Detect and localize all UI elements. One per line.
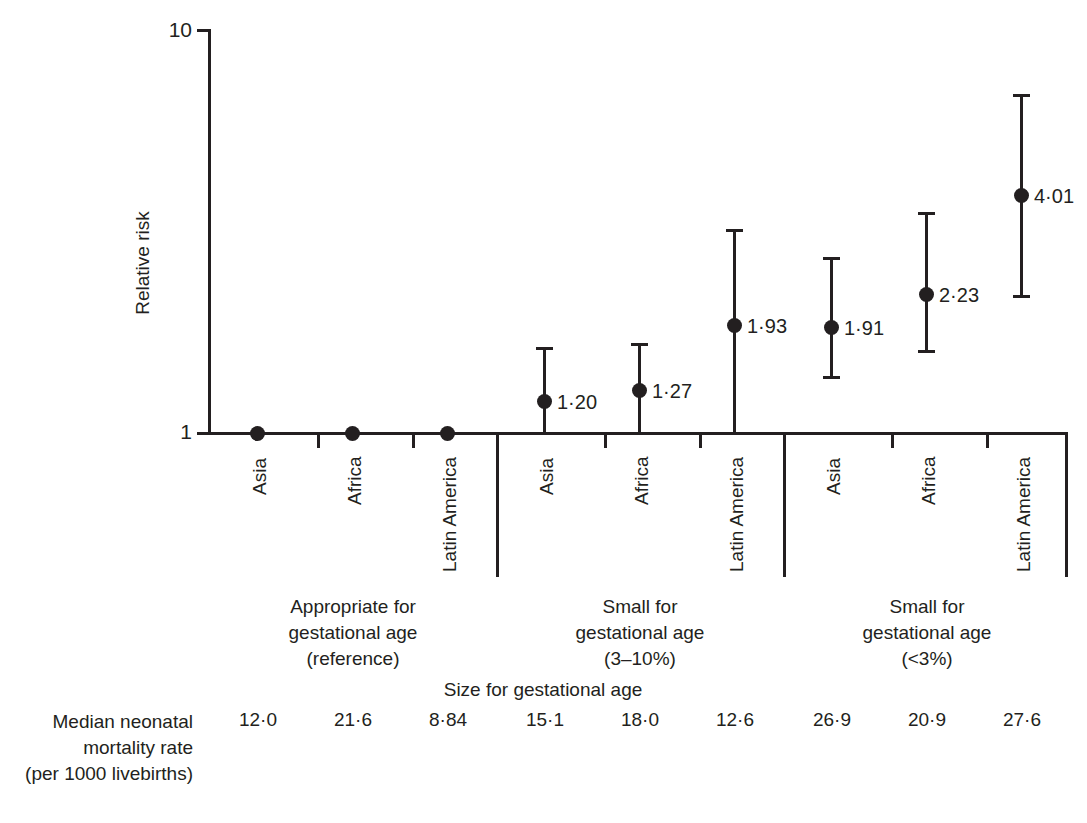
group-title-line: gestational age	[222, 620, 484, 646]
error-bar-cap-upper	[918, 212, 935, 215]
y-axis-line	[208, 29, 211, 435]
group-title-sga-lt3: Small for gestational age (<3%)	[796, 594, 1058, 672]
group-title-line: gestational age	[509, 620, 771, 646]
mortality-row-label-line: (per 1000 livebirths)	[0, 761, 193, 787]
mortality-value: 12·6	[689, 709, 781, 731]
group-title-line: Small for	[796, 594, 1058, 620]
data-point-label: 4·01	[1034, 185, 1074, 208]
x-tick	[891, 435, 894, 448]
x-category-label: Asia	[249, 458, 271, 495]
mortality-value: 18·0	[594, 709, 686, 731]
error-bar-cap-upper	[823, 257, 840, 260]
x-category-label: Africa	[918, 456, 940, 505]
x-tick	[604, 435, 607, 448]
data-point-label: 1·93	[747, 315, 787, 338]
mortality-row-label: Median neonatal mortality rate (per 1000…	[0, 709, 193, 787]
x-category-label: Latin America	[1013, 457, 1035, 572]
error-bar-cap-upper	[1013, 94, 1030, 97]
error-bar-cap-lower	[918, 350, 935, 353]
mortality-value: 26·9	[786, 709, 878, 731]
group-title-line: (reference)	[222, 646, 484, 672]
data-point	[919, 287, 934, 302]
data-point	[250, 426, 265, 441]
error-bar-cap-lower	[1013, 295, 1030, 298]
group-title-sga-3-10: Small for gestational age (3–10%)	[509, 594, 771, 672]
error-bar	[925, 212, 928, 353]
data-point	[345, 426, 360, 441]
data-point	[632, 383, 647, 398]
mortality-value: 12·0	[212, 709, 304, 731]
data-point	[727, 318, 742, 333]
mortality-value: 20·9	[881, 709, 973, 731]
x-tick	[412, 435, 415, 448]
x-category-label: Africa	[344, 456, 366, 505]
chart-figure: 10 1 Relative risk 1·20 1·27 1·93 1·91 2…	[0, 0, 1087, 823]
mortality-row-label-line: Median neonatal	[0, 709, 193, 735]
x-category-label: Africa	[631, 456, 653, 505]
error-bar-cap-lower	[823, 376, 840, 379]
data-point-label: 1·91	[844, 317, 884, 340]
group-title-line: Small for	[509, 594, 771, 620]
data-point	[440, 426, 455, 441]
y-tick-label-10: 10	[140, 18, 192, 42]
mortality-value: 8·84	[402, 709, 494, 731]
mortality-row-label-line: mortality rate	[0, 735, 193, 761]
group-separator-1	[496, 432, 499, 577]
mortality-value: 15·1	[499, 709, 591, 731]
x-category-label: Latin America	[439, 457, 461, 572]
data-point	[537, 394, 552, 409]
y-axis-top-cap	[197, 29, 211, 32]
group-title-line: Appropriate for	[222, 594, 484, 620]
group-separator-2	[783, 432, 786, 577]
y-axis-title: Relative risk	[132, 183, 154, 343]
data-point-label: 2·23	[939, 284, 979, 307]
x-tick	[317, 435, 320, 448]
group-title-line: gestational age	[796, 620, 1058, 646]
x-tick	[699, 435, 702, 448]
error-bar-cap-upper	[536, 347, 553, 350]
x-category-label: Asia	[536, 458, 558, 495]
data-point	[824, 320, 839, 335]
mortality-value: 27·6	[976, 709, 1068, 731]
error-bar-cap-upper	[631, 343, 648, 346]
error-bar-cap-upper	[726, 229, 743, 232]
x-axis-right-cap	[1065, 432, 1068, 577]
data-point-label: 1·27	[652, 380, 692, 403]
group-title-line: (3–10%)	[509, 646, 771, 672]
error-bar	[543, 347, 546, 433]
x-tick	[986, 435, 989, 448]
x-category-label: Asia	[823, 458, 845, 495]
data-point	[1014, 188, 1029, 203]
y-tick-label-1: 1	[140, 420, 192, 444]
x-axis-title: Size for gestational age	[413, 679, 673, 701]
group-title-line: (<3%)	[796, 646, 1058, 672]
error-bar	[830, 257, 833, 379]
group-title-reference: Appropriate for gestational age (referen…	[222, 594, 484, 672]
mortality-value: 21·6	[307, 709, 399, 731]
data-point-label: 1·20	[557, 391, 597, 414]
x-category-label: Latin America	[726, 457, 748, 572]
